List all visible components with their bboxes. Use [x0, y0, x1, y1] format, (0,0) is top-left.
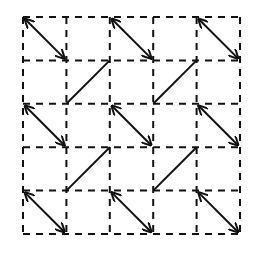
diagonal-arrow	[112, 193, 151, 232]
grid-diagram	[0, 0, 257, 253]
diagonal-arrow	[112, 19, 151, 58]
diagonal-line	[66, 147, 109, 190]
diagonal-line	[66, 60, 109, 103]
diagonal-arrow	[199, 106, 238, 145]
diagonals	[25, 19, 238, 232]
diagonal-arrow	[199, 193, 238, 232]
diagonal-arrow	[112, 106, 151, 145]
diagonal-arrow	[199, 19, 238, 58]
diagonal-line	[153, 147, 196, 190]
diagonal-arrow	[25, 106, 64, 145]
diagonal-arrow	[25, 19, 64, 58]
diagonal-line	[153, 60, 196, 103]
diagonal-arrow	[25, 193, 64, 232]
